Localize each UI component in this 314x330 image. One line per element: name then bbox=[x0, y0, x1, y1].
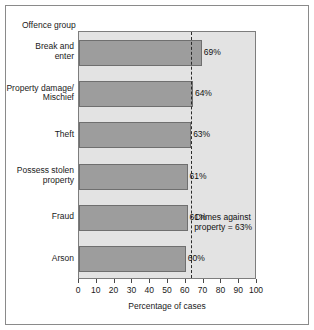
y-axis-title: Offence group bbox=[22, 20, 76, 30]
x-tick-label: 40 bbox=[144, 285, 153, 295]
x-tick bbox=[256, 279, 257, 283]
x-tick bbox=[167, 279, 168, 283]
category-label-line: Theft bbox=[0, 130, 74, 140]
reference-line bbox=[191, 32, 192, 278]
bar bbox=[79, 205, 188, 231]
x-tick-label: 20 bbox=[109, 285, 118, 295]
x-tick bbox=[78, 279, 79, 283]
x-tick-label: 30 bbox=[127, 285, 136, 295]
value-label: 64% bbox=[195, 88, 212, 98]
x-tick bbox=[220, 279, 221, 283]
x-tick bbox=[203, 279, 204, 283]
x-tick bbox=[96, 279, 97, 283]
x-tick-label: 50 bbox=[162, 285, 171, 295]
category-label: Theft bbox=[0, 130, 74, 140]
bar bbox=[79, 40, 202, 66]
bar bbox=[79, 122, 191, 148]
category-label: Fraud bbox=[0, 212, 74, 222]
x-tick bbox=[238, 279, 239, 283]
category-label: Break andenter bbox=[0, 42, 74, 61]
category-label-line: property bbox=[0, 176, 74, 186]
x-tick-label: 60 bbox=[180, 285, 189, 295]
annotation-line-2: property = 63% bbox=[194, 223, 252, 233]
category-label: Possess stolenproperty bbox=[0, 166, 74, 185]
x-tick-label: 100 bbox=[249, 285, 263, 295]
category-label-line: enter bbox=[0, 52, 74, 62]
x-tick-label: 80 bbox=[216, 285, 225, 295]
category-label: Arson bbox=[0, 254, 74, 264]
x-tick bbox=[114, 279, 115, 283]
x-tick-label: 10 bbox=[91, 285, 100, 295]
reference-line-annotation: Crimes against property = 63% bbox=[194, 213, 252, 232]
chart-figure: Offence group Break andenterProperty dam… bbox=[0, 0, 314, 330]
category-label-line: Fraud bbox=[0, 212, 74, 222]
x-tick bbox=[149, 279, 150, 283]
category-label-line: Arson bbox=[0, 254, 74, 264]
x-tick bbox=[185, 279, 186, 283]
value-label: 63% bbox=[193, 129, 210, 139]
x-axis-title: Percentage of cases bbox=[78, 301, 256, 311]
x-tick-label: 0 bbox=[76, 285, 81, 295]
x-tick-label: 70 bbox=[198, 285, 207, 295]
plot-area bbox=[78, 31, 256, 279]
x-tick-label: 90 bbox=[233, 285, 242, 295]
bar bbox=[79, 246, 186, 272]
value-label: 61% bbox=[190, 171, 207, 181]
value-label: 60% bbox=[188, 253, 205, 263]
bar bbox=[79, 81, 193, 107]
value-label: 69% bbox=[204, 47, 221, 57]
x-tick bbox=[131, 279, 132, 283]
category-label: Property damage/Mischief bbox=[0, 84, 74, 103]
category-label-line: Mischief bbox=[0, 93, 74, 103]
bar bbox=[79, 164, 188, 190]
